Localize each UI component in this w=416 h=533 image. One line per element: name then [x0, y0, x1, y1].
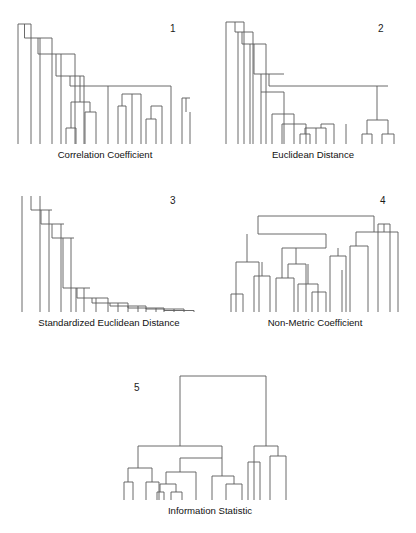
dendrogram-lines-4 — [231, 216, 398, 312]
dendrogram-panel-3 — [18, 190, 200, 312]
panel-label-5: Information Statistic — [124, 506, 296, 516]
dendrogram-lines-2 — [226, 22, 394, 144]
dendrogram-lines-1 — [18, 24, 190, 144]
figure-root: 1 Correlation Coefficient — [0, 0, 416, 533]
panel-number-4: 4 — [380, 196, 386, 206]
dendrogram-plot-4 — [226, 206, 404, 312]
dendrogram-panel-2 — [222, 16, 404, 144]
panel-label-1: Correlation Coefficient — [14, 150, 196, 160]
dendrogram-plot-5 — [124, 372, 296, 500]
panel-label-2: Euclidean Distance — [222, 150, 404, 160]
panel-number-1: 1 — [170, 24, 176, 34]
panel-number-5: 5 — [134, 383, 140, 393]
dendrogram-plot-3 — [18, 190, 200, 312]
dendrogram-panel-1 — [14, 16, 196, 144]
dendrogram-plot-1 — [14, 16, 196, 144]
panel-label-4: Non-Metric Coefficient — [226, 318, 404, 328]
panel-number-3: 3 — [170, 196, 176, 206]
panel-number-2: 2 — [378, 24, 384, 34]
dendrogram-plot-2 — [222, 16, 404, 144]
dendrogram-lines-5 — [124, 376, 286, 500]
dendrogram-panel-4 — [226, 206, 404, 312]
dendrogram-panel-5 — [124, 372, 296, 500]
panel-label-3: Standardized Euclidean Distance — [9, 318, 209, 328]
dendrogram-lines-3 — [22, 196, 194, 312]
